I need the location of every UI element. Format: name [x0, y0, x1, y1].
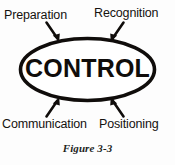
arrow-preparation — [47, 23, 60, 42]
figure-container: Preparation Recognition Communication Po… — [0, 0, 175, 165]
label-preparation: Preparation — [4, 9, 67, 22]
control-diagram-graphic — [0, 0, 175, 165]
label-recognition: Recognition — [94, 7, 158, 20]
arrow-recognition — [110, 23, 123, 42]
figure-caption: Figure 3-3 — [0, 142, 175, 154]
label-communication: Communication — [2, 118, 87, 131]
arrow-communication — [47, 97, 60, 116]
arrow-positioning — [110, 97, 123, 116]
label-positioning: Positioning — [99, 118, 159, 131]
control-ellipse-label: CONTROL — [0, 55, 175, 82]
